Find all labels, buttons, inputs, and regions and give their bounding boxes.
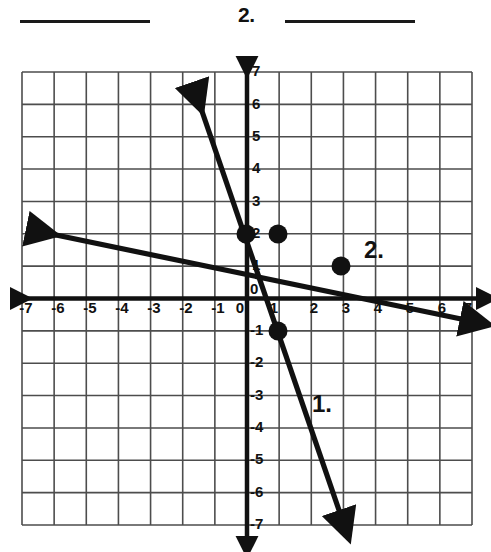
answer-blank-right[interactable] <box>285 20 415 23</box>
x-tick-1: 1 <box>270 299 278 316</box>
worksheet-page: 2. <box>0 0 491 552</box>
y-tick-7: 7 <box>252 62 260 79</box>
y-tick-1: 1 <box>252 256 260 273</box>
y-tick--2: -2 <box>250 353 263 370</box>
x-tick-3: 3 <box>342 299 350 316</box>
y-tick--4: -4 <box>250 418 264 435</box>
x-tick--7: -7 <box>19 299 32 316</box>
line-2-tag: 2. <box>364 236 384 263</box>
y-tick-5: 5 <box>252 127 260 144</box>
point-1-2 <box>269 225 288 244</box>
y-tick--1: -1 <box>250 321 263 338</box>
x-tick--5: -5 <box>83 299 96 316</box>
line-1-tag: 1. <box>312 390 332 417</box>
coordinate-graph: -7 -6 -5 -4 -3 -2 -1 0 1 2 3 4 5 6 7 7 6… <box>0 40 491 552</box>
x-tick--3: -3 <box>147 299 160 316</box>
x-tick-4: 4 <box>374 299 383 316</box>
x-tick-7: 7 <box>464 299 472 316</box>
x-tick-5: 5 <box>406 299 414 316</box>
x-tick-0: 0 <box>236 299 244 316</box>
x-tick-2: 2 <box>310 299 318 316</box>
x-tick--1: -1 <box>211 299 224 316</box>
x-tick--6: -6 <box>51 299 64 316</box>
y-tick-4: 4 <box>252 159 261 176</box>
problem-number-label: 2. <box>238 3 255 27</box>
y-tick--5: -5 <box>250 450 263 467</box>
point-3-1 <box>332 257 351 276</box>
y-tick--6: -6 <box>250 483 263 500</box>
x-tick--4: -4 <box>115 299 129 316</box>
y-tick-2: 2 <box>252 224 260 241</box>
y-tick-0: 0 <box>250 280 258 297</box>
y-tick-3: 3 <box>252 192 260 209</box>
answer-blank-left[interactable] <box>20 20 150 23</box>
x-tick--2: -2 <box>179 299 192 316</box>
y-tick--3: -3 <box>250 386 263 403</box>
point-1-n1 <box>269 322 288 341</box>
y-tick--7: -7 <box>250 515 263 532</box>
x-tick-6: 6 <box>438 299 446 316</box>
y-tick-6: 6 <box>252 95 260 112</box>
